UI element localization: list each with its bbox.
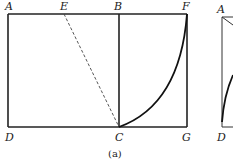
label-E: E — [59, 0, 68, 13]
caption-a: (a) — [108, 148, 122, 159]
label-C: C — [115, 131, 124, 144]
arc-CF — [119, 14, 187, 127]
partial-label-D: D — [216, 131, 226, 144]
label-F: F — [181, 0, 190, 13]
label-G: G — [182, 131, 191, 144]
partial-arc — [222, 75, 233, 122]
diagram-canvas: A E B F D C G (a) A D — [0, 0, 233, 161]
label-B: B — [113, 0, 122, 13]
segment-EC-dashed — [64, 14, 119, 127]
label-A: A — [4, 0, 13, 13]
partial-label-A: A — [216, 3, 225, 16]
partial-segment-diagonal — [222, 17, 233, 25]
label-D: D — [4, 131, 14, 144]
